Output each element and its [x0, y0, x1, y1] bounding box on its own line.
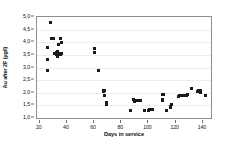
plot-area — [36, 16, 212, 119]
x-axis-title: Days in service — [36, 131, 212, 137]
x-tick-label: 20 — [36, 124, 42, 130]
y-tick-label: 3,5 — [23, 51, 30, 56]
data-point — [60, 41, 63, 44]
y-tick-mark — [31, 79, 34, 80]
y-tick-mark — [31, 117, 34, 118]
data-point — [49, 21, 52, 24]
x-tick-label: 100 — [143, 124, 151, 130]
data-point — [204, 94, 207, 97]
data-point — [129, 109, 132, 112]
x-tick-label: 60 — [90, 124, 96, 130]
data-point — [161, 99, 164, 102]
data-point — [46, 46, 49, 49]
data-point — [52, 37, 55, 40]
y-tick-mark — [31, 16, 34, 17]
y-tick-mark — [31, 41, 34, 42]
x-tick-mark — [120, 120, 121, 123]
x-axis: 20406080100120140 — [36, 120, 212, 130]
data-point — [165, 109, 168, 112]
scatter-chart: 1,01,52,02,53,03,54,04,55,0 Au after 2F … — [0, 0, 230, 148]
data-point — [93, 47, 96, 50]
data-point — [59, 37, 62, 40]
y-tick-label: 2,0 — [23, 89, 30, 94]
data-point — [139, 99, 142, 102]
x-tick-mark — [202, 120, 203, 123]
y-axis-title: Au after 2F (µg/l) — [0, 16, 10, 119]
y-tick-label: 2,5 — [23, 77, 30, 82]
x-tick-mark — [93, 120, 94, 123]
gridline — [37, 68, 211, 69]
gridline — [37, 30, 211, 31]
data-point — [46, 69, 49, 72]
x-tick-mark — [66, 120, 67, 123]
x-tick-label: 40 — [63, 124, 69, 130]
data-point — [97, 69, 100, 72]
data-point — [170, 103, 173, 106]
y-tick-label: 1,0 — [23, 115, 30, 120]
y-tick-mark — [31, 66, 34, 67]
data-point — [105, 103, 108, 106]
data-point — [151, 108, 154, 111]
y-tick-mark — [31, 91, 34, 92]
x-tick-mark — [175, 120, 176, 123]
y-tick-label: 5,0 — [23, 14, 30, 19]
data-point — [162, 93, 165, 96]
y-tick-label: 4,5 — [23, 26, 30, 31]
y-tick-mark — [31, 28, 34, 29]
gridline — [37, 42, 211, 43]
y-tick-label: 3,0 — [23, 64, 30, 69]
y-tick-mark — [31, 104, 34, 105]
x-tick-label: 120 — [170, 124, 178, 130]
gridline — [37, 80, 211, 81]
data-point — [190, 87, 193, 90]
data-point — [143, 109, 146, 112]
data-point — [186, 93, 189, 96]
x-tick-label: 80 — [117, 124, 123, 130]
data-point — [199, 91, 202, 94]
data-point — [60, 52, 63, 55]
y-tick-mark — [31, 53, 34, 54]
y-tick-label: 1,5 — [23, 102, 30, 107]
x-tick-label: 140 — [198, 124, 206, 130]
gridline — [37, 105, 211, 106]
x-tick-mark — [39, 120, 40, 123]
y-tick-label: 4,0 — [23, 39, 30, 44]
x-tick-mark — [147, 120, 148, 123]
gridline — [37, 55, 211, 56]
data-point — [103, 94, 106, 97]
data-point — [93, 51, 96, 54]
data-point — [46, 58, 49, 61]
data-point — [103, 89, 106, 92]
